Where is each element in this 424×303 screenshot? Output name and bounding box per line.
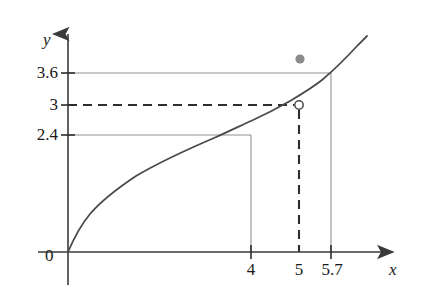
- y-tick-label-3: 3: [4, 96, 58, 113]
- y-tick-label-2-4: 2.4: [4, 126, 58, 143]
- origin-label: 0: [45, 247, 54, 264]
- y-axis-label: y: [43, 31, 51, 48]
- open-circle-point: [295, 101, 303, 109]
- gray-dot-marker: [295, 54, 304, 63]
- x-tick-label-5-7: 5.7: [312, 261, 352, 278]
- graph-figure: y x 0 3.6 3 2.4 4 5 5.7: [0, 0, 424, 303]
- x-tick-label-4: 4: [231, 261, 271, 278]
- function-curve: [68, 36, 367, 252]
- plot-canvas: [0, 0, 424, 303]
- y-tick-label-3-6: 3.6: [4, 64, 58, 81]
- x-axis-label: x: [389, 261, 397, 278]
